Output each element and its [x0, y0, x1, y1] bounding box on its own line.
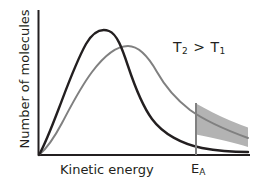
comparison-operator: >: [188, 39, 210, 55]
temperature-comparison-annotation: T2 > T1: [173, 40, 226, 56]
t2-symbol: T: [173, 39, 182, 55]
x-axis-label: Kinetic energy: [60, 163, 154, 176]
plot-area: [0, 0, 256, 186]
y-axis-label: Number of molecules: [18, 19, 31, 149]
activation-energy-label: EA: [191, 162, 205, 177]
t1-subscript: 1: [220, 46, 226, 56]
activation-energy-symbol: E: [191, 161, 199, 176]
maxwell-boltzmann-chart: Number of molecules Kinetic energy EA T2…: [0, 0, 256, 186]
t1-symbol: T: [210, 39, 219, 55]
shaded-area-above-activation-energy: [196, 104, 248, 148]
activation-energy-subscript: A: [199, 167, 205, 177]
